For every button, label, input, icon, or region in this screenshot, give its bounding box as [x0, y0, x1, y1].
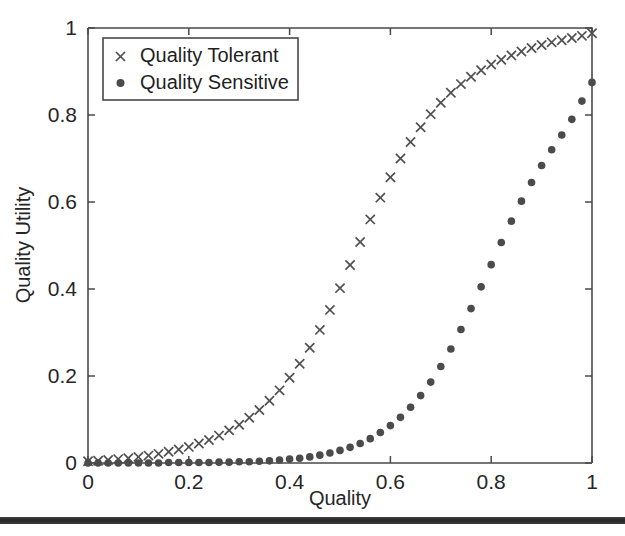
- y-tick-label: 0.2: [48, 364, 77, 387]
- x-tick-label: 0.8: [477, 470, 506, 493]
- dot-data-marker: [286, 455, 294, 463]
- dot-data-marker: [427, 378, 435, 386]
- y-tick-label: 0.4: [48, 277, 78, 300]
- dot-data-marker: [306, 453, 314, 461]
- dot-data-marker: [94, 459, 102, 467]
- x-data-marker: [376, 193, 385, 202]
- dot-data-marker: [477, 283, 485, 291]
- dot-data-marker: [215, 458, 223, 466]
- dot-data-marker: [407, 404, 415, 412]
- dot-data-marker: [377, 429, 385, 437]
- x-data-marker: [194, 439, 203, 448]
- dot-data-marker: [165, 459, 173, 467]
- x-tick-label: 1: [586, 470, 598, 493]
- x-data-marker: [366, 215, 375, 224]
- dot-data-marker: [316, 451, 324, 459]
- legend-entry-quality-tolerant[interactable]: Quality Tolerant: [116, 44, 279, 66]
- dot-data-marker: [205, 459, 213, 467]
- dot-data-marker: [296, 454, 304, 462]
- dot-data-marker: [195, 459, 203, 467]
- dot-data-marker: [145, 459, 153, 467]
- dot-data-marker: [558, 131, 566, 139]
- dot-data-marker: [518, 197, 526, 205]
- x-data-marker: [426, 110, 435, 119]
- y-tick-label: 1: [65, 16, 77, 39]
- x-data-marker: [406, 137, 415, 146]
- dot-data-marker: [266, 457, 274, 465]
- dot-data-marker: [548, 146, 556, 154]
- x-data-marker: [235, 420, 244, 429]
- x-data-marker: [214, 431, 223, 440]
- dot-data-marker: [447, 345, 455, 353]
- x-data-marker: [547, 38, 556, 47]
- x-data-marker: [436, 98, 445, 107]
- dot-data-marker: [225, 458, 233, 466]
- x-data-marker: [164, 447, 173, 456]
- dot-data-marker: [568, 116, 576, 124]
- x-data-marker: [345, 260, 354, 269]
- x-data-marker: [527, 43, 536, 52]
- x-data-marker: [265, 396, 274, 405]
- x-data-marker: [154, 449, 163, 458]
- dot-marker-icon: [117, 79, 125, 87]
- dot-data-marker: [185, 459, 193, 467]
- dot-data-marker: [417, 392, 425, 400]
- x-data-marker: [507, 51, 516, 60]
- x-data-marker: [497, 55, 506, 64]
- legend[interactable]: Quality Tolerant Quality Sensitive: [103, 38, 298, 100]
- x-data-marker: [204, 435, 213, 444]
- x-data-marker: [456, 80, 465, 89]
- x-data-marker: [386, 173, 395, 182]
- x-data-marker: [225, 426, 234, 435]
- series-quality-sensitive: [84, 79, 596, 467]
- quality-utility-scatter-chart: 00.20.40.60.81 00.20.40.60.81 Quality Qu…: [0, 0, 625, 536]
- x-axis-title: Quality: [309, 487, 371, 509]
- dot-data-marker: [528, 179, 536, 187]
- y-axis-title: Quality Utility: [12, 187, 34, 304]
- x-data-marker: [174, 445, 183, 454]
- x-data-marker: [577, 31, 586, 40]
- dot-data-marker: [235, 458, 243, 466]
- dot-data-marker: [387, 422, 395, 430]
- x-tick-label: 0.2: [174, 470, 203, 493]
- dot-data-marker: [336, 447, 344, 455]
- dot-data-marker: [497, 239, 505, 247]
- x-data-marker: [567, 33, 576, 42]
- x-tick-label: 0.4: [275, 470, 305, 493]
- x-tick-label: 0: [82, 470, 94, 493]
- dot-data-marker: [104, 459, 112, 467]
- x-data-marker: [245, 413, 254, 422]
- scan-artifact-bar: [0, 517, 625, 524]
- dot-data-marker: [508, 217, 516, 225]
- dot-data-marker: [256, 457, 264, 465]
- legend-label-quality-sensitive: Quality Sensitive: [140, 71, 289, 93]
- x-data-marker: [315, 325, 324, 334]
- x-data-marker: [446, 88, 455, 97]
- x-data-marker: [184, 442, 193, 451]
- dot-data-marker: [578, 97, 586, 105]
- dot-data-marker: [437, 363, 445, 371]
- dot-data-marker: [175, 459, 183, 467]
- y-tick-label: 0.8: [48, 103, 77, 126]
- x-data-marker: [285, 373, 294, 382]
- x-data-marker: [255, 405, 264, 414]
- x-data-marker: [487, 60, 496, 69]
- dot-data-marker: [538, 162, 546, 170]
- dot-data-marker: [346, 444, 354, 452]
- dot-data-marker: [276, 456, 284, 464]
- dot-data-marker: [467, 305, 475, 313]
- x-data-marker: [466, 72, 475, 81]
- x-data-marker: [517, 47, 526, 56]
- dot-data-marker: [114, 459, 122, 467]
- x-data-marker: [477, 66, 486, 75]
- dot-data-marker: [487, 261, 495, 269]
- y-axis-tick-labels: 00.20.40.60.81: [48, 16, 78, 474]
- x-data-marker: [295, 359, 304, 368]
- dot-data-marker: [245, 458, 253, 466]
- x-data-marker: [416, 123, 425, 132]
- legend-entry-quality-sensitive[interactable]: Quality Sensitive: [117, 71, 289, 93]
- x-data-marker: [144, 451, 153, 460]
- dot-data-marker: [125, 459, 133, 467]
- x-data-marker: [356, 237, 365, 246]
- dot-data-marker: [84, 459, 92, 467]
